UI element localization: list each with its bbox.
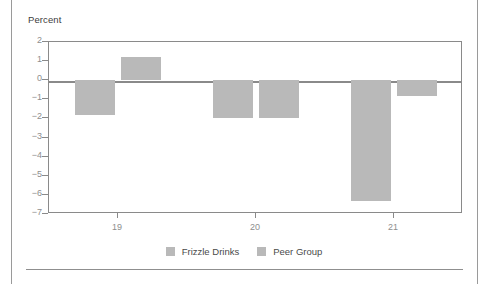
bar	[213, 80, 253, 118]
y-tick-label: −7	[0, 207, 42, 217]
y-tick-label: −5	[0, 169, 42, 179]
legend-entry[interactable]: Peer Group	[257, 246, 322, 257]
bar	[397, 80, 437, 96]
legend-label: Peer Group	[273, 246, 322, 257]
y-tick-label: −2	[0, 111, 42, 121]
x-tick-label: 19	[87, 222, 147, 232]
y-tick-label: −4	[0, 150, 42, 160]
chart-figure: Percent 210−1−2−3−4−5−6−7 192021 Frizzle…	[0, 0, 488, 284]
legend-entry[interactable]: Frizzle Drinks	[166, 246, 240, 257]
bar	[259, 80, 299, 118]
bar	[351, 80, 391, 200]
y-tick-mark	[42, 213, 48, 214]
y-tick-label: −3	[0, 131, 42, 141]
x-tick-label: 21	[363, 222, 423, 232]
x-tick-mark	[393, 213, 394, 218]
x-tick-mark	[255, 213, 256, 218]
page-bottom-rule	[26, 269, 463, 270]
bar	[121, 57, 161, 80]
legend-label: Frizzle Drinks	[182, 246, 240, 257]
y-tick-label: 1	[0, 54, 42, 64]
legend-swatch-icon	[257, 247, 266, 256]
y-tick-label: −1	[0, 92, 42, 102]
y-axis-title: Percent	[28, 14, 61, 25]
y-tick-label: 0	[0, 73, 42, 83]
legend-swatch-icon	[166, 247, 175, 256]
x-tick-mark	[117, 213, 118, 218]
chart-legend: Frizzle DrinksPeer Group	[0, 246, 488, 257]
bar	[75, 80, 115, 114]
y-tick-label: 2	[0, 35, 42, 45]
page-right-rule	[477, 0, 478, 284]
plot-area	[48, 41, 462, 213]
x-tick-label: 20	[225, 222, 285, 232]
y-tick-label: −6	[0, 188, 42, 198]
